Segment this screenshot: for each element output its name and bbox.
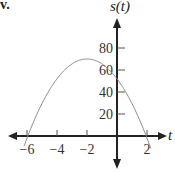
y-axis-up-arrow-icon xyxy=(113,18,121,28)
x-tick-label: −6 xyxy=(20,142,35,157)
x-tick-label: −4 xyxy=(50,142,65,157)
y-tick-label: 60 xyxy=(99,63,113,78)
y-tick-label: 80 xyxy=(99,41,113,56)
x-axis-right-arrow-icon xyxy=(158,132,167,140)
parabola-chart: −6−4−2220406080 xyxy=(0,0,175,173)
ticks: −6−4−2220406080 xyxy=(20,41,151,157)
y-tick-label: 40 xyxy=(99,85,113,100)
x-tick-label: −2 xyxy=(80,142,95,157)
y-axis-down-arrow-icon xyxy=(113,159,121,169)
x-axis-left-arrow-icon xyxy=(8,132,17,140)
y-tick-label: 20 xyxy=(99,107,113,122)
